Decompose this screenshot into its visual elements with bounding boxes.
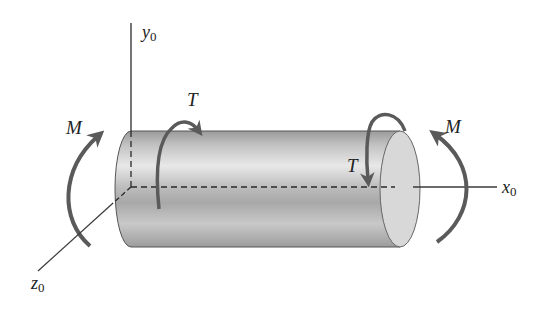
moment-right-label: M: [444, 116, 462, 137]
moment-right-arrow: [436, 135, 467, 242]
moment-left-label: M: [65, 117, 83, 138]
z-axis-label: z0: [30, 273, 45, 295]
shaft-diagram: y0 x0 z0 M M T T: [0, 0, 550, 311]
x-axis-label: x0: [501, 177, 517, 199]
torque-left-label: T: [187, 89, 199, 110]
z-axis-line: [38, 204, 112, 271]
y-axis-label: y0: [140, 22, 157, 44]
torque-right-label: T: [347, 155, 359, 176]
cylinder-end-cap: [380, 131, 420, 247]
